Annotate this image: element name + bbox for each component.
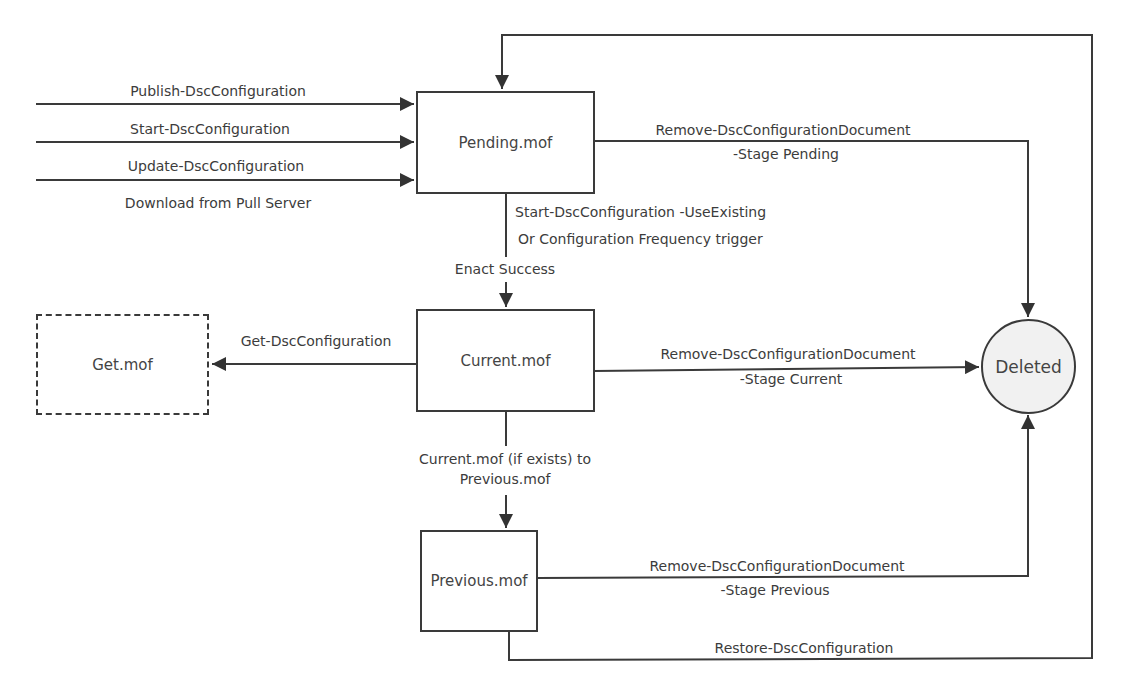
current-mof-label: Current.mof [460,352,550,370]
current-to-previous-label-2: Previous.mof [460,471,551,488]
input-label-update: Update-DscConfiguration [128,158,304,175]
pending-to-current-label-2: Or Configuration Frequency trigger [518,231,763,248]
previous-mof-label: Previous.mof [430,572,527,590]
deleted-label: Deleted [995,357,1062,377]
previous-mof-node: Previous.mof [420,530,538,632]
pending-to-current-label-3: Enact Success [455,261,555,278]
current-to-deleted-label-2: -Stage Current [740,371,843,388]
input-label-download: Download from Pull Server [125,195,311,212]
deleted-state-node: Deleted [981,319,1076,414]
previous-to-deleted-label-1: Remove-DscConfigurationDocument [649,558,904,575]
pending-to-deleted-label-1: Remove-DscConfigurationDocument [655,122,910,139]
pending-mof-label: Pending.mof [459,134,553,152]
pending-to-deleted-label-2: -Stage Pending [733,146,839,163]
current-mof-node: Current.mof [416,309,595,412]
previous-to-deleted-line [537,415,1028,578]
get-mof-node: Get.mof [36,314,209,415]
previous-to-deleted-label-2: -Stage Previous [720,582,829,599]
current-to-previous-label-1: Current.mof (if exists) to [419,451,591,468]
pending-to-current-label-1: Start-DscConfiguration -UseExisting [515,204,766,221]
input-label-publish: Publish-DscConfiguration [130,83,306,100]
get-mof-label: Get.mof [92,356,153,374]
restore-label: Restore-DscConfiguration [715,640,894,657]
pending-mof-node: Pending.mof [416,91,595,194]
current-to-deleted-label-1: Remove-DscConfigurationDocument [660,346,915,363]
current-to-get-label: Get-DscConfiguration [241,333,392,350]
input-label-start: Start-DscConfiguration [130,121,290,138]
pending-to-deleted-line [594,141,1028,317]
